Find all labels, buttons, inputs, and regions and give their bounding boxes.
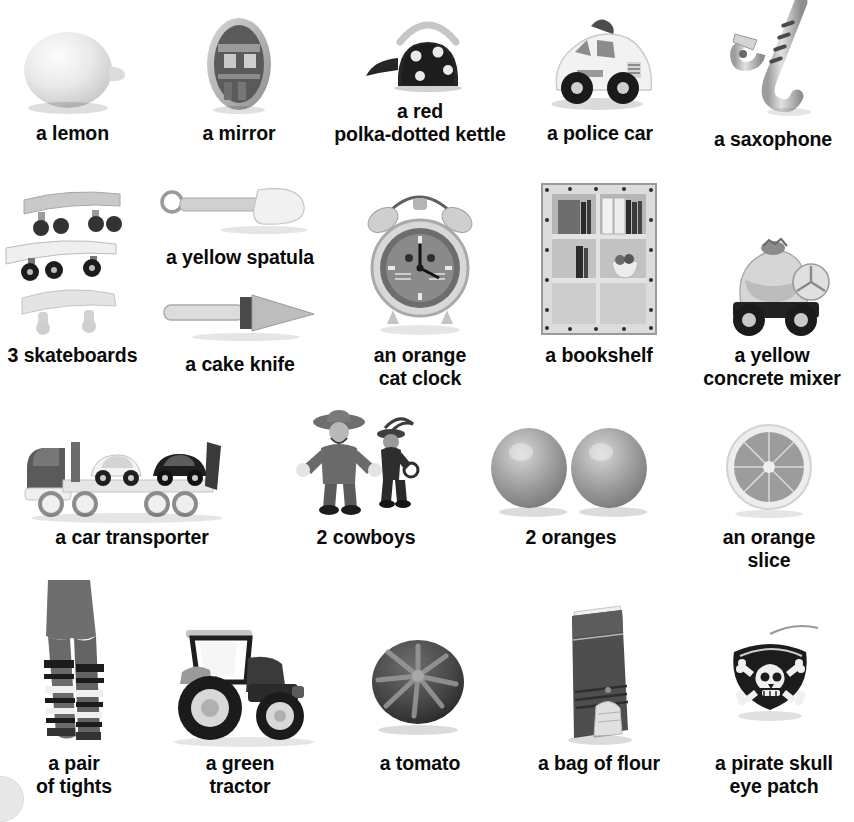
- caption-oranges: 2 oranges: [470, 526, 672, 549]
- item-spatula: a yellow spatula a cake knife: [152, 180, 328, 376]
- concrete-mixer-icon: [690, 222, 854, 340]
- item-cowboys: 2 cowboys: [268, 404, 464, 549]
- caption-tomato: a tomato: [340, 752, 500, 775]
- item-pirate-eye-patch: a pirate skull eye patch: [694, 586, 854, 798]
- item-row-4: a pair of tights: [0, 586, 854, 801]
- item-police-car: a police car: [522, 8, 678, 145]
- item-bag-of-flour: a bag of flour: [512, 586, 686, 775]
- cake-knife-icon: [152, 287, 328, 347]
- item-kettle: a red polka-dotted kettle: [330, 8, 510, 146]
- caption-cake-knife: a cake knife: [152, 353, 328, 376]
- item-bookshelf: a bookshelf: [516, 180, 682, 367]
- cat-clock-icon: [340, 180, 500, 340]
- item-skateboards: 3 skateboards: [0, 180, 145, 367]
- caption-bag-of-flour: a bag of flour: [512, 752, 686, 775]
- item-concrete-mixer: a yellow concrete mixer: [690, 180, 854, 390]
- item-mirror: a mirror: [168, 8, 310, 145]
- caption-tractor: a green tractor: [152, 752, 328, 798]
- item-row-2: 3 skateboards a yellow spatula: [0, 180, 854, 390]
- caption-cowboys: 2 cowboys: [268, 526, 464, 549]
- lemon-icon: [0, 8, 145, 116]
- item-row-1: a lemon: [0, 8, 854, 168]
- bookshelf-icon: [516, 180, 682, 338]
- bag-of-flour-icon: [512, 596, 686, 746]
- caption-lemon: a lemon: [0, 122, 145, 145]
- tractor-icon: [152, 624, 328, 748]
- caption-spatula: a yellow spatula: [152, 246, 328, 269]
- item-orange-slice: an orange slice: [684, 404, 854, 572]
- caption-police-car: a police car: [522, 122, 678, 145]
- spatula-icon: [152, 180, 328, 242]
- item-cat-clock: an orange cat clock: [340, 180, 500, 390]
- mirror-icon: [168, 8, 310, 116]
- item-tractor: a green tractor: [152, 586, 328, 798]
- item-oranges: 2 oranges: [470, 404, 672, 549]
- item-tomato: a tomato: [340, 586, 500, 775]
- caption-saxophone: a saxophone: [692, 128, 854, 151]
- item-lemon: a lemon: [0, 8, 145, 145]
- item-saxophone: a saxophone: [692, 8, 854, 151]
- item-tights: a pair of tights: [0, 586, 148, 798]
- car-transporter-icon: [0, 420, 264, 524]
- orange-slice-icon: [684, 422, 854, 520]
- cowboys-icon: [268, 404, 464, 522]
- caption-mirror: a mirror: [168, 122, 310, 145]
- caption-cat-clock: an orange cat clock: [340, 344, 500, 390]
- tomato-icon: [340, 632, 500, 744]
- police-car-icon: [522, 8, 678, 116]
- caption-concrete-mixer: a yellow concrete mixer: [690, 344, 854, 390]
- skateboards-icon: [0, 180, 145, 340]
- item-row-3: a car transporter: [0, 404, 854, 582]
- caption-pirate-eye-patch: a pirate skull eye patch: [694, 752, 854, 798]
- pirate-eye-patch-icon: [694, 622, 854, 744]
- oranges-icon: [470, 422, 672, 520]
- caption-orange-slice: an orange slice: [684, 526, 854, 572]
- tights-icon: [0, 586, 148, 748]
- caption-skateboards: 3 skateboards: [0, 344, 145, 367]
- caption-car-transporter: a car transporter: [0, 526, 264, 549]
- caption-kettle: a red polka-dotted kettle: [330, 100, 510, 146]
- saxophone-icon: [692, 8, 854, 124]
- kettle-icon: [330, 8, 510, 96]
- item-car-transporter: a car transporter: [0, 404, 264, 549]
- caption-bookshelf: a bookshelf: [516, 344, 682, 367]
